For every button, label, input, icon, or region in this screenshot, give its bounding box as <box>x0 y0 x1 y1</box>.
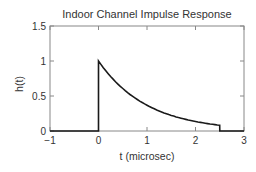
x-tick-label: 1 <box>144 135 150 146</box>
x-tick-label: 0 <box>96 135 102 146</box>
x-tick-label: 3 <box>241 135 247 146</box>
impulse-response-line <box>50 61 244 131</box>
y-tick-label: 0 <box>40 126 46 137</box>
x-tick-label: −1 <box>44 135 56 146</box>
y-tick-label: 0.5 <box>32 91 46 102</box>
x-tick-label: 2 <box>193 135 199 146</box>
plot-frame <box>50 26 244 131</box>
axis-ticks: −1012300.511.5 <box>32 21 247 147</box>
plot-area: −1012300.511.5 <box>0 0 256 172</box>
y-tick-label: 1.5 <box>32 21 46 32</box>
y-tick-label: 1 <box>40 56 46 67</box>
